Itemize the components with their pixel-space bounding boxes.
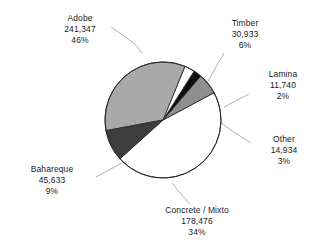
leader-line-concrete — [172, 183, 190, 204]
pie-label-other-name: Other — [250, 134, 318, 145]
pie-label-adobe-name: Adobe — [40, 13, 120, 24]
pie-label-timber-percent: 6% — [205, 40, 285, 51]
pie-label-bahareque-percent: 9% — [6, 186, 98, 197]
pie-label-timber-value: 30,933 — [205, 29, 285, 40]
leader-line-lamina — [224, 94, 249, 107]
pie-label-other-percent: 3% — [250, 156, 318, 167]
leader-line-timber — [205, 53, 224, 87]
pie-label-lamina-value: 11,740 — [248, 80, 318, 91]
pie-label-lamina-percent: 2% — [248, 91, 318, 102]
pie-label-adobe: Adobe 241,347 46% — [40, 13, 120, 46]
pie-label-timber-name: Timber — [205, 18, 285, 29]
pie-label-bahareque-name: Bahareque — [6, 164, 98, 175]
pie-label-bahareque: Bahareque 45,633 9% — [6, 164, 98, 197]
pie-label-other-value: 14,934 — [250, 145, 318, 156]
pie-label-lamina: Lamina 11,740 2% — [248, 69, 318, 102]
pie-label-concrete-name: Concrete / Mixto — [145, 205, 249, 216]
pie-label-other: Other 14,934 3% — [250, 134, 318, 167]
pie-label-bahareque-value: 45,633 — [6, 175, 98, 186]
pie-label-adobe-percent: 46% — [40, 35, 120, 46]
pie-label-timber: Timber 30,933 6% — [205, 18, 285, 51]
pie-label-concrete: Concrete / Mixto 178,476 34% — [145, 205, 249, 238]
pie-label-concrete-percent: 34% — [145, 227, 249, 238]
pie-label-lamina-name: Lamina — [248, 69, 318, 80]
pie-chart-figure: Adobe 241,347 46% Timber 30,933 6% Lamin… — [0, 0, 320, 252]
pie-label-adobe-value: 241,347 — [40, 24, 120, 35]
pie-slices — [105, 62, 221, 178]
pie-label-concrete-value: 178,476 — [145, 216, 249, 227]
